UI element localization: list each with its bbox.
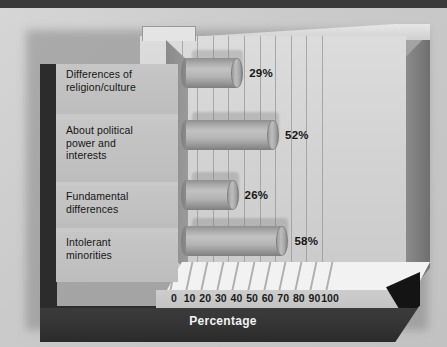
bar-body: [186, 180, 233, 210]
x-tick-label-70: 70: [277, 292, 289, 304]
chart-canvas: 29%52%26%58% Differences of religion/cul…: [0, 0, 447, 347]
category-label-text: About political power and interests: [66, 124, 174, 162]
bar-end-cap: [227, 180, 239, 210]
gridline-100: [322, 36, 323, 272]
bar-3[interactable]: [186, 180, 233, 210]
bar-value-label: 58%: [294, 235, 318, 247]
x-tick-label-10: 10: [184, 292, 196, 304]
bar-body: [186, 120, 273, 150]
bar-value-label: 29%: [249, 67, 273, 79]
category-label-row: Fundamental differences: [56, 186, 178, 228]
bar-body: [186, 226, 282, 256]
panel-left-dark-border: [40, 64, 57, 316]
x-axis-tick-band: 0102030405060708090100: [156, 290, 414, 308]
x-tick-label-30: 30: [215, 292, 227, 304]
x-tick-label-80: 80: [293, 292, 305, 304]
top-notch-tab: [142, 26, 196, 41]
right-wall-3d: [404, 32, 430, 300]
x-tick-label-40: 40: [231, 292, 243, 304]
bar-1[interactable]: [186, 58, 237, 88]
bar-value-label: 26%: [245, 189, 269, 201]
x-tick-label-50: 50: [246, 292, 258, 304]
category-label-text: Differences of religion/culture: [66, 68, 174, 93]
category-label-panel: Differences of religion/cultureAbout pol…: [56, 64, 178, 282]
bar-body: [186, 58, 237, 88]
category-label-text: Fundamental differences: [66, 190, 174, 215]
bar-4[interactable]: [186, 226, 282, 256]
bar-value-label: 52%: [285, 129, 309, 141]
chart-3d-block: 29%52%26%58% Differences of religion/cul…: [18, 14, 430, 332]
category-label-row: Differences of religion/culture: [56, 64, 178, 114]
category-label-row: Intolerant minorities: [56, 232, 178, 282]
x-tick-label-60: 60: [262, 292, 274, 304]
x-axis-title: Percentage: [40, 314, 406, 328]
category-label-row: About political power and interests: [56, 120, 178, 182]
top-dark-band: [0, 0, 447, 8]
x-tick-label-90: 90: [309, 292, 321, 304]
gridline-80: [291, 36, 292, 272]
x-tick-label-20: 20: [199, 292, 211, 304]
x-tick-label-0: 0: [171, 292, 177, 304]
category-label-text: Intolerant minorities: [66, 236, 174, 261]
bar-2[interactable]: [186, 120, 273, 150]
x-tick-label-100: 100: [321, 292, 339, 304]
